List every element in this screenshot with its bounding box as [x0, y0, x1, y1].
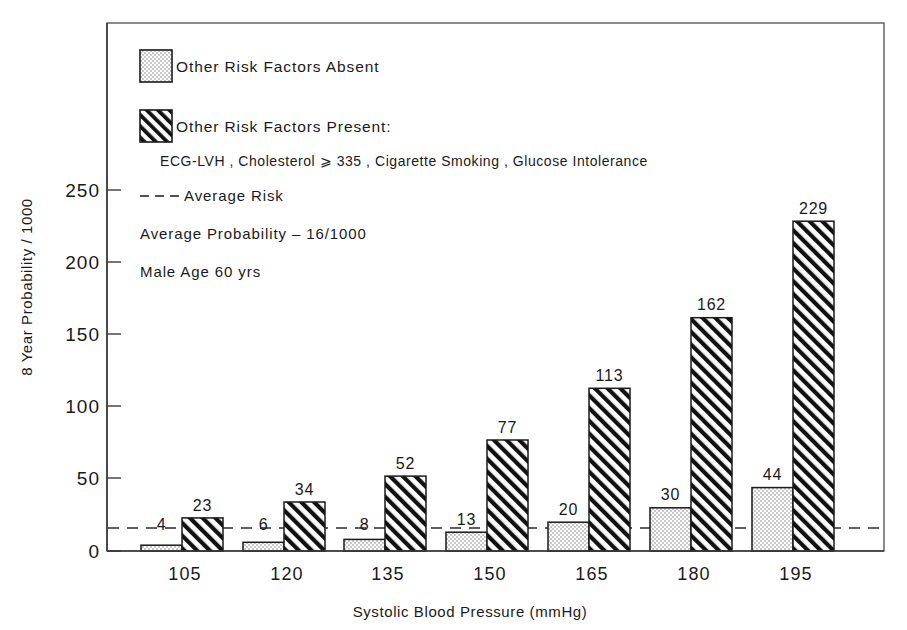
- bar-label-present-135: 52: [396, 455, 415, 472]
- x-ticklabel-165: 165: [575, 564, 609, 584]
- bar-present-135: [385, 476, 426, 551]
- y-ticklabel-250: 250: [65, 180, 100, 201]
- legend-item-absent-label: Other Risk Factors Absent: [176, 58, 379, 75]
- bar-absent-195: [752, 488, 793, 551]
- y-ticklabel-0: 0: [88, 541, 100, 562]
- average-risk-legend-label: Average Risk: [184, 187, 284, 204]
- bar-label-present-195: 229: [799, 200, 828, 217]
- bar-label-present-120: 34: [295, 481, 314, 498]
- bar-present-180: [691, 318, 732, 551]
- chart-canvas: Other Risk Factors Absent Other Risk Fac…: [0, 0, 907, 630]
- bar-present-120: [284, 502, 325, 551]
- legend-item-present-label: Other Risk Factors Present:: [176, 118, 392, 135]
- bar-present-105: [182, 518, 223, 551]
- x-axis-title: Systolic Blood Pressure (mmHg): [353, 603, 588, 620]
- note-average-probability: Average Probability – 16/1000: [140, 225, 367, 242]
- y-ticklabel-150: 150: [65, 324, 100, 345]
- bar-present-165: [589, 388, 630, 551]
- bar-absent-180: [650, 508, 691, 551]
- bar-absent-105: [141, 545, 182, 551]
- legend-present-detail: ECG-LVH , Cholesterol ⩾ 335 , Cigarette …: [160, 153, 648, 169]
- x-ticklabel-135: 135: [371, 564, 405, 584]
- bar-label-absent-105: 4: [157, 516, 167, 533]
- bar-label-present-150: 77: [498, 419, 517, 436]
- x-ticklabel-195: 195: [779, 564, 813, 584]
- chart-figure: Other Risk Factors Absent Other Risk Fac…: [0, 0, 907, 630]
- bar-label-absent-195: 44: [763, 466, 782, 483]
- x-ticklabel-180: 180: [677, 564, 711, 584]
- bar-label-absent-135: 8: [360, 516, 370, 533]
- y-ticklabel-50: 50: [77, 468, 100, 489]
- hatch-swatch: [140, 110, 172, 142]
- y-ticklabel-100: 100: [65, 396, 100, 417]
- bar-absent-135: [344, 539, 385, 551]
- bar-label-absent-120: 6: [259, 516, 269, 533]
- bar-label-present-165: 113: [596, 367, 624, 384]
- stipple-swatch: [140, 50, 172, 82]
- bar-absent-165: [548, 522, 589, 551]
- bar-label-present-105: 23: [193, 497, 212, 514]
- y-ticklabel-200: 200: [65, 252, 100, 273]
- note-subject: Male Age 60 yrs: [140, 263, 261, 280]
- x-ticklabel-120: 120: [270, 564, 304, 584]
- bar-label-absent-165: 20: [559, 501, 578, 518]
- bar-label-absent-180: 30: [661, 486, 680, 503]
- y-axis-title: 8 Year Probability / 1000: [18, 198, 35, 376]
- bar-absent-120: [243, 542, 284, 551]
- bar-label-present-180: 162: [697, 296, 726, 313]
- x-ticklabel-150: 150: [473, 564, 507, 584]
- bar-present-150: [487, 440, 528, 551]
- bar-absent-150: [446, 532, 487, 551]
- bar-present-195: [793, 221, 834, 551]
- bar-label-absent-150: 13: [457, 511, 476, 528]
- x-ticklabel-105: 105: [168, 564, 202, 584]
